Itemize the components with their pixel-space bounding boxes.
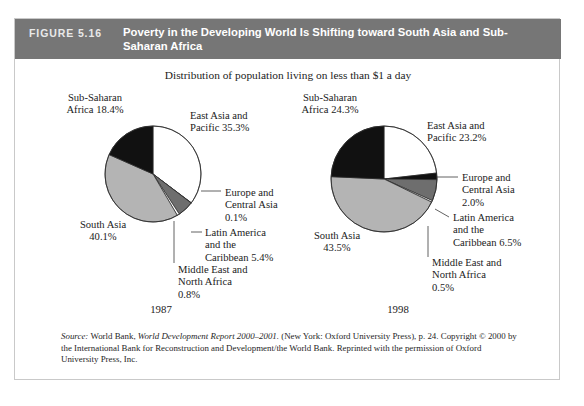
pie-label-sub-saharan-africa-line: Sub-Saharan xyxy=(303,92,358,103)
source-publisher: World Bank, xyxy=(91,331,136,341)
figure-header-bar: FIGURE 5.16 Poverty in the Developing Wo… xyxy=(15,19,561,59)
pie-label-europe-and-central-asia-line: Europe and xyxy=(462,172,511,183)
pie-label-europe-and-central-asia-line: Central Asia xyxy=(462,184,515,195)
pie-label-sub-saharan-africa: Sub-SaharanAfrica 18.4% xyxy=(66,92,123,115)
pie-label-sub-saharan-africa-line: Sub-Saharan xyxy=(68,92,123,103)
figure-title: Poverty in the Developing World Is Shift… xyxy=(123,19,561,53)
pie-label-east-asia-and-pacific-line: East Asia and xyxy=(190,110,248,121)
chart-year-label-1987: 1987 xyxy=(150,303,172,315)
pie-label-europe-and-central-asia-line: Europe and xyxy=(225,187,274,198)
pie-label-europe-and-central-asia: Europe andCentral Asia2.0% xyxy=(462,172,515,208)
pie-label-east-asia-and-pacific: East Asia andPacific 23.2% xyxy=(427,120,487,143)
pie-label-middle-east-and-north-africa-line: Middle East and xyxy=(432,257,502,268)
pie-slice-sub-saharan-africa xyxy=(331,126,384,179)
pie-label-south-asia-line: South Asia xyxy=(80,219,127,230)
pie-label-latin-america-and-the-caribbean-line: and the xyxy=(205,239,236,250)
pie-label-middle-east-and-north-africa-line: 0.8% xyxy=(178,289,200,300)
charts-area: East Asia andPacific 35.3%Europe andCent… xyxy=(15,81,561,321)
pie-label-sub-saharan-africa-line: Africa 24.3% xyxy=(301,104,358,115)
pie-label-europe-and-central-asia-line: 0.1% xyxy=(225,212,247,223)
pie-label-east-asia-and-pacific-line: Pacific 23.2% xyxy=(427,132,487,143)
pie-label-latin-america-and-the-caribbean-line: Latin America xyxy=(205,227,266,238)
pie-label-east-asia-and-pacific-line: East Asia and xyxy=(427,120,485,131)
pie-label-europe-and-central-asia-line: 2.0% xyxy=(462,197,484,208)
pie-chart-1987: East Asia andPacific 35.3%Europe andCent… xyxy=(66,92,278,315)
pie-label-middle-east-and-north-africa-line: 0.5% xyxy=(432,282,454,293)
pie-label-middle-east-and-north-africa-line: Middle East and xyxy=(178,264,248,275)
pie-label-east-asia-and-pacific: East Asia andPacific 35.3% xyxy=(190,110,250,133)
chart-subtitle: Distribution of population living on les… xyxy=(15,69,561,81)
pie-label-latin-america-and-the-caribbean: Latin Americaand theCaribbean 6.5% xyxy=(453,212,521,248)
pie-label-south-asia-line: 43.5% xyxy=(323,242,351,253)
pie-label-south-asia-line: 40.1% xyxy=(89,231,117,242)
pie-label-middle-east-and-north-africa-line: North Africa xyxy=(178,276,232,287)
source-report-title: World Development Report 2000–2001. xyxy=(138,331,279,341)
pie-label-latin-america-and-the-caribbean-line: Latin America xyxy=(453,212,514,223)
leader-line-latin-america-and-the-caribbean xyxy=(435,209,449,217)
pie-label-south-asia: South Asia43.5% xyxy=(314,230,361,253)
pie-label-europe-and-central-asia: Europe andCentral Asia0.1% xyxy=(225,187,278,223)
pie-label-middle-east-and-north-africa: Middle East andNorth Africa0.5% xyxy=(432,257,502,293)
pie-charts-svg: East Asia andPacific 35.3%Europe andCent… xyxy=(15,81,561,321)
pie-label-east-asia-and-pacific-line: Pacific 35.3% xyxy=(190,122,250,133)
pie-label-south-asia-line: South Asia xyxy=(314,230,361,241)
pie-label-latin-america-and-the-caribbean: Latin Americaand theCaribbean 5.4% xyxy=(205,227,273,263)
pie-label-middle-east-and-north-africa: Middle East andNorth Africa0.8% xyxy=(178,264,248,300)
pie-chart-1998: East Asia andPacific 23.2%Europe andCent… xyxy=(301,92,521,315)
chart-year-label-1998: 1998 xyxy=(387,303,409,315)
pie-label-south-asia: South Asia40.1% xyxy=(80,219,127,242)
pie-label-middle-east-and-north-africa-line: North Africa xyxy=(432,269,486,280)
source-note: Source: World Bank, World Development Re… xyxy=(61,331,519,366)
pie-label-latin-america-and-the-caribbean-line: and the xyxy=(453,224,484,235)
figure-frame: FIGURE 5.16 Poverty in the Developing Wo… xyxy=(14,18,560,380)
pie-label-europe-and-central-asia-line: Central Asia xyxy=(225,199,278,210)
figure-number-label: FIGURE 5.16 xyxy=(15,19,123,39)
pie-label-sub-saharan-africa: Sub-SaharanAfrica 24.3% xyxy=(301,92,358,115)
pie-label-latin-america-and-the-caribbean-line: Caribbean 6.5% xyxy=(453,237,521,248)
pie-label-latin-america-and-the-caribbean-line: Caribbean 5.4% xyxy=(205,252,273,263)
source-label: Source: xyxy=(61,331,88,341)
pie-label-sub-saharan-africa-line: Africa 18.4% xyxy=(66,104,123,115)
